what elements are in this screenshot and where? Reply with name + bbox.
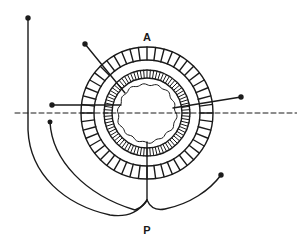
wavy-core	[118, 84, 177, 143]
leader-endpoint-right	[239, 95, 243, 99]
label-a: A	[143, 31, 151, 43]
right-curve	[147, 175, 221, 210]
outer-left-endpoint	[26, 16, 30, 20]
leader-endpoint-left	[50, 103, 54, 107]
leader-line-right	[173, 97, 241, 108]
leader-endpoint-upper-left	[83, 42, 87, 46]
label-p: P	[143, 224, 150, 236]
inner-left-endpoint	[48, 120, 52, 124]
right-endpoint	[219, 173, 223, 177]
